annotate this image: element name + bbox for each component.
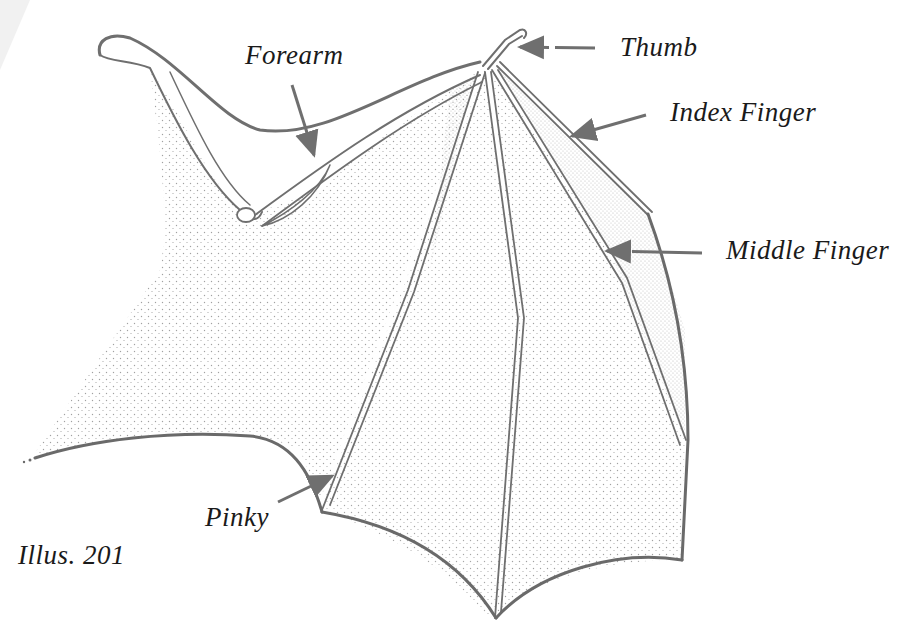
- illustration-caption: Illus. 201: [18, 540, 125, 571]
- forearm-arrow: [292, 85, 314, 155]
- label-forearm: Forearm: [245, 40, 344, 71]
- middle-finger-arrow: [607, 251, 702, 253]
- label-pinky: Pinky: [205, 502, 269, 533]
- bat-wing-illustration: [0, 0, 924, 628]
- thumb-bone: [483, 30, 526, 69]
- label-thumb: Thumb: [620, 32, 698, 63]
- label-middle-finger: Middle Finger: [726, 235, 889, 266]
- label-index-finger: Index Finger: [670, 97, 816, 128]
- index-finger-arrow: [572, 115, 646, 136]
- thumb-arrow: [520, 47, 595, 48]
